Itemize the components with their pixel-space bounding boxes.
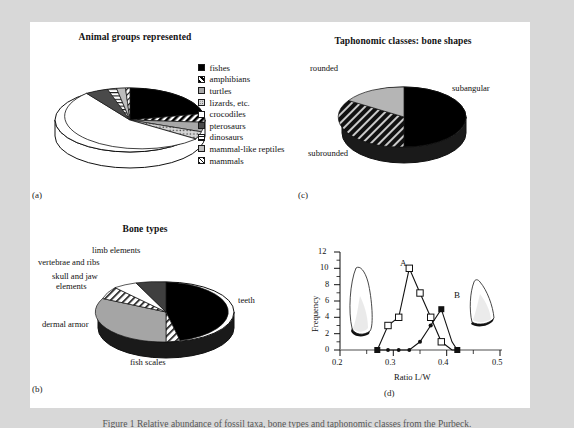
legend-label-amphibians: amphibians xyxy=(210,74,251,84)
panel-b: Bone types limb elements vertebrae and xyxy=(30,212,288,408)
legend-item-amphibians: amphibians xyxy=(198,74,285,86)
legend-swatch-amphibians xyxy=(198,76,205,83)
figure-caption: Figure 1 Relative abundance of fossil ta… xyxy=(0,419,574,428)
panel-d-ytick-12: 12 xyxy=(318,247,326,256)
panel-d-ytick-10: 10 xyxy=(320,263,328,272)
legend-item-turtles: turtles xyxy=(198,85,285,97)
legend-swatch-mammals xyxy=(198,157,205,164)
legend-item-mammal-like-reptiles: mammal-like reptiles xyxy=(198,143,285,155)
legend-item-pterosaurs: pterosaurs xyxy=(198,120,285,132)
panel-d-ytick-4: 4 xyxy=(325,312,329,321)
legend-label-pterosaurs: pterosaurs xyxy=(210,121,246,131)
legend-label-mammals: mammals xyxy=(210,156,244,166)
panel-d-ytick-6: 6 xyxy=(325,296,329,305)
panel-a-letter: (a) xyxy=(32,190,42,200)
panel-d-ytick-2: 2 xyxy=(325,329,329,338)
panel-b-label-teeth: teeth xyxy=(238,296,255,305)
panel-d-yaxis-title: Frequency xyxy=(310,296,320,332)
legend-swatch-pterosaurs xyxy=(198,122,205,129)
legend-label-mammal-like-reptiles: mammal-like reptiles xyxy=(210,144,285,154)
panel-a-pie xyxy=(50,58,210,178)
figure-sheet: Animal groups represented xyxy=(30,22,530,408)
legend-item-crocodiles: crocodiles xyxy=(198,108,285,120)
panel-d-ytick-8: 8 xyxy=(325,280,329,289)
panel-b-label-limb-elements: limb elements xyxy=(92,246,140,255)
legend-swatch-mammal-like-reptiles xyxy=(198,145,205,152)
panel-d-xtick-0-3: 0.3 xyxy=(385,358,395,367)
legend-item-mammals: mammals xyxy=(198,155,285,167)
panel-b-label-dermal-armor: dermal armor xyxy=(42,320,89,329)
panel-d-xaxis-title: Ratio L/W xyxy=(394,372,431,382)
legend-swatch-fishes xyxy=(198,64,205,71)
panel-d-xtick-0-4: 0.4 xyxy=(438,358,448,367)
legend-item-fishes: fishes xyxy=(198,62,285,74)
legend-swatch-crocodiles xyxy=(198,111,205,118)
panel-d-letter: (d) xyxy=(384,388,395,398)
legend-label-crocodiles: crocodiles xyxy=(210,109,246,119)
legend-item-lizards: lizards, etc. xyxy=(198,97,285,109)
panel-b-title: Bone types xyxy=(70,224,220,234)
panel-d: 12 10 8 6 4 2 0 0.2 0.3 0.4 0.5 Ratio L/… xyxy=(288,212,530,408)
legend-label-turtles: turtles xyxy=(210,86,232,96)
legend-label-fishes: fishes xyxy=(210,63,231,73)
panel-b-label-fish-scales: fish scales xyxy=(130,358,166,367)
panel-d-ytick-0: 0 xyxy=(325,345,329,354)
legend-label-dinosaurs: dinosaurs xyxy=(210,132,244,142)
panel-c-pie xyxy=(332,62,482,172)
legend-swatch-lizards xyxy=(198,99,205,106)
panel-b-label-skull-elements: elements xyxy=(56,282,87,291)
legend-swatch-dinosaurs xyxy=(198,134,205,141)
panel-c-label-subangular: subangular xyxy=(452,84,490,93)
panel-c-title: Taphonomic classes: bone shapes xyxy=(298,36,508,46)
panel-a-legend: fishes amphibians turtles lizards, etc. … xyxy=(198,62,285,166)
panel-c: Taphonomic classes: bone shapes rounded … xyxy=(288,22,530,212)
panel-c-letter: (c) xyxy=(298,190,308,200)
legend-item-dinosaurs: dinosaurs xyxy=(198,132,285,144)
panel-b-label-skull-and-jaw: skull and jaw xyxy=(52,272,98,281)
panel-d-series-label-b: B xyxy=(454,290,460,300)
panel-a-title: Animal groups represented xyxy=(30,32,240,42)
panel-b-letter: (b) xyxy=(32,384,43,394)
panel-c-label-subrounded: subrounded xyxy=(308,149,348,158)
panel-d-series-label-a: A xyxy=(400,258,407,268)
legend-swatch-turtles xyxy=(198,87,205,94)
panel-c-label-rounded: rounded xyxy=(310,64,338,73)
panel-b-label-vertebrae-and-ribs: vertebrae and ribs xyxy=(38,258,100,267)
panel-d-xtick-0-5: 0.5 xyxy=(492,358,502,367)
panel-a: Animal groups represented xyxy=(30,22,288,212)
panel-d-xtick-0-2: 0.2 xyxy=(332,358,342,367)
legend-label-lizards: lizards, etc. xyxy=(210,98,250,108)
panel-b-pie xyxy=(92,254,252,374)
